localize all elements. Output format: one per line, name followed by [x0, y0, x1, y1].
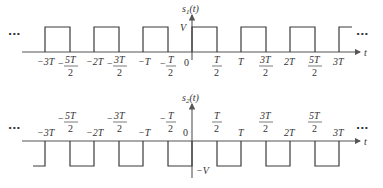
svg-text:3T: 3T — [332, 127, 345, 138]
svg-text:−3T: −3T — [37, 56, 56, 67]
svg-text:2: 2 — [117, 123, 122, 134]
svg-text:2: 2 — [214, 67, 219, 78]
svg-text:−: − — [58, 58, 64, 69]
svg-text:5T: 5T — [309, 110, 321, 121]
svg-text:T: T — [214, 54, 221, 65]
svg-text:5T: 5T — [65, 110, 77, 121]
svg-text:−: − — [58, 113, 64, 124]
svg-text:5T: 5T — [65, 54, 77, 65]
level-V-label: V — [180, 22, 188, 33]
s1-waveform — [45, 27, 352, 52]
svg-text:3T: 3T — [113, 110, 126, 121]
svg-text:2: 2 — [263, 123, 268, 134]
svg-text:−: − — [107, 113, 113, 124]
svg-text:−3T: −3T — [37, 127, 56, 138]
svg-text:2: 2 — [117, 67, 122, 78]
svg-text:−2T: −2T — [86, 127, 105, 138]
svg-text:−2T: −2T — [86, 56, 105, 67]
svg-text:5T: 5T — [309, 54, 321, 65]
svg-text:2: 2 — [312, 67, 317, 78]
svg-text:2: 2 — [263, 67, 268, 78]
ellipsis-right: ··· — [356, 28, 369, 41]
origin-label: 0 — [184, 57, 189, 68]
svg-text:T: T — [168, 110, 175, 121]
svg-text:T: T — [238, 56, 245, 67]
svg-text:3T: 3T — [259, 110, 272, 121]
svg-text:2T: 2T — [284, 127, 296, 138]
s2-label: s2(t) — [182, 92, 200, 105]
svg-text:T: T — [214, 110, 221, 121]
tick-labels-top: −3T − 5T 2 −2T − 3T 2 −T − T 2 T 2 T 3T … — [37, 54, 345, 78]
t-axis-label: t — [364, 47, 367, 58]
svg-text:2: 2 — [68, 123, 73, 134]
svg-text:−: − — [107, 58, 113, 69]
t-axis-label: t — [364, 136, 367, 147]
svg-text:−T: −T — [138, 56, 152, 67]
svg-text:−: − — [160, 113, 166, 124]
svg-text:2: 2 — [168, 123, 173, 134]
svg-text:−: − — [160, 58, 166, 69]
ellipsis-left: ··· — [8, 122, 21, 135]
svg-text:2: 2 — [214, 123, 219, 134]
ellipsis-left: ··· — [8, 28, 21, 41]
svg-text:2: 2 — [168, 67, 173, 78]
svg-text:2: 2 — [312, 123, 317, 134]
square-wave-diagram: ··· ··· s1(t) V t 0 −3T − 5T 2 −2T − 3T … — [0, 0, 383, 188]
plot-s2: ··· ··· s2(t) −V t 0 −3T − 5T 2 −2T − 3T… — [8, 92, 369, 178]
svg-text:T: T — [238, 127, 245, 138]
svg-text:3T: 3T — [113, 54, 126, 65]
svg-text:T: T — [168, 54, 175, 65]
svg-text:2: 2 — [68, 67, 73, 78]
level-minus-V-label: −V — [196, 165, 211, 176]
s2-waveform — [33, 141, 339, 166]
plot-s1: ··· ··· s1(t) V t 0 −3T − 5T 2 −2T − 3T … — [8, 3, 369, 78]
ellipsis-right: ··· — [356, 122, 369, 135]
origin-label: 0 — [183, 127, 188, 138]
svg-text:2T: 2T — [284, 56, 296, 67]
svg-text:3T: 3T — [259, 54, 272, 65]
tick-labels-bottom: −3T − 5T 2 −2T − 3T 2 −T − T 2 T 2 T 3T … — [37, 110, 345, 138]
s1-label: s1(t) — [182, 3, 200, 16]
svg-text:3T: 3T — [332, 56, 345, 67]
svg-text:−T: −T — [138, 127, 152, 138]
